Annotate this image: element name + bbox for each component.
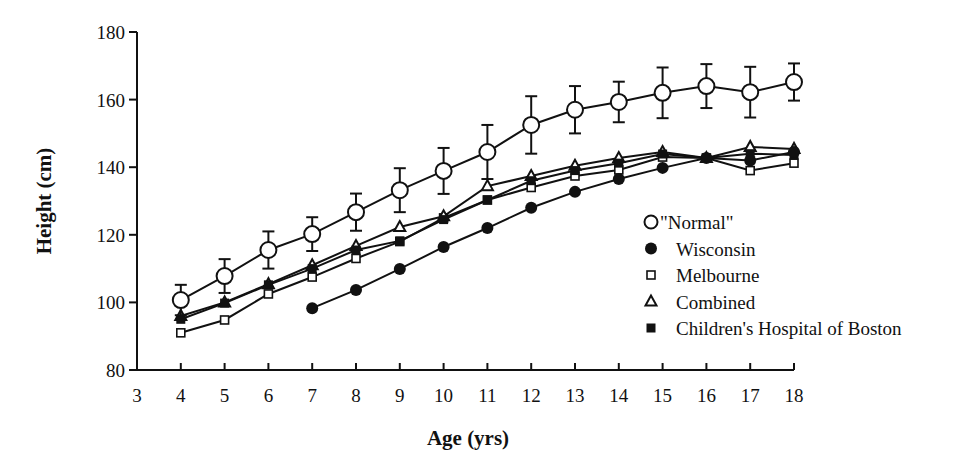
data-point bbox=[221, 316, 229, 324]
data-point bbox=[348, 204, 364, 220]
data-point bbox=[655, 85, 671, 101]
data-point bbox=[527, 176, 536, 185]
x-tick-label: 3 bbox=[132, 385, 142, 406]
x-tick-label: 10 bbox=[434, 385, 453, 406]
data-point bbox=[439, 215, 448, 224]
open-circle-icon bbox=[645, 216, 658, 229]
data-point bbox=[394, 263, 406, 275]
data-point bbox=[220, 299, 229, 308]
data-point bbox=[746, 167, 754, 175]
y-tick-label: 80 bbox=[106, 360, 125, 381]
x-tick-label: 14 bbox=[609, 385, 629, 406]
data-point bbox=[304, 226, 320, 242]
x-tick-label: 8 bbox=[351, 385, 361, 406]
filled-circle-icon bbox=[645, 243, 657, 255]
y-tick-label: 180 bbox=[97, 22, 126, 43]
data-point bbox=[700, 152, 712, 164]
data-point bbox=[614, 159, 623, 168]
y-axis-title: Height (cm) bbox=[32, 148, 56, 255]
x-tick-label: 6 bbox=[264, 385, 274, 406]
data-point bbox=[698, 78, 714, 94]
data-point bbox=[569, 186, 581, 198]
legend-item: Combined bbox=[646, 292, 756, 313]
data-point bbox=[264, 280, 273, 289]
data-point bbox=[350, 284, 362, 296]
data-point bbox=[308, 273, 316, 281]
x-tick-label: 16 bbox=[697, 385, 716, 406]
data-point bbox=[217, 268, 233, 284]
y-tick-label: 100 bbox=[97, 292, 126, 313]
data-point bbox=[352, 254, 360, 262]
data-point bbox=[523, 117, 539, 133]
legend-item: Wisconsin bbox=[645, 239, 756, 260]
x-tick-label: 12 bbox=[522, 385, 541, 406]
legend-label: Combined bbox=[676, 292, 756, 313]
data-point bbox=[481, 222, 493, 234]
data-point bbox=[177, 329, 185, 337]
legend-item: "Normal" bbox=[645, 212, 734, 233]
y-tick-label: 140 bbox=[97, 157, 126, 178]
legend-item: Melbourne bbox=[647, 265, 759, 286]
y-tick-label: 120 bbox=[97, 225, 126, 246]
data-point bbox=[306, 302, 318, 314]
data-point bbox=[482, 180, 493, 190]
x-tick-label: 9 bbox=[395, 385, 405, 406]
x-axis-title: Age (yrs) bbox=[427, 426, 509, 450]
data-point bbox=[436, 163, 452, 179]
data-point bbox=[658, 150, 667, 159]
data-point bbox=[788, 146, 800, 158]
data-point bbox=[525, 202, 537, 214]
legend-label: Wisconsin bbox=[676, 239, 756, 260]
x-tick-label: 13 bbox=[566, 385, 585, 406]
data-point bbox=[479, 144, 495, 160]
x-tick-label: 15 bbox=[653, 385, 672, 406]
data-point bbox=[483, 195, 492, 204]
data-point bbox=[744, 154, 756, 166]
data-point bbox=[395, 236, 404, 245]
y-tick-label: 160 bbox=[97, 90, 126, 111]
data-point bbox=[790, 159, 798, 167]
data-point bbox=[567, 102, 583, 118]
data-point bbox=[611, 94, 627, 110]
legend-label: "Normal" bbox=[660, 212, 734, 233]
legend-label: Melbourne bbox=[676, 265, 759, 286]
legend: "Normal"WisconsinMelbourneCombinedChildr… bbox=[645, 212, 903, 339]
data-point bbox=[438, 241, 450, 253]
data-point bbox=[264, 290, 272, 298]
open-square-icon bbox=[647, 271, 655, 279]
x-tick-label: 17 bbox=[741, 385, 760, 406]
data-point bbox=[173, 292, 189, 308]
height-vs-age-chart: 8010012014016018034567891011121314151617… bbox=[0, 0, 971, 465]
x-tick-label: 5 bbox=[220, 385, 230, 406]
data-point bbox=[394, 221, 405, 231]
x-tick-label: 7 bbox=[307, 385, 317, 406]
data-point bbox=[786, 74, 802, 90]
data-point bbox=[657, 162, 669, 174]
data-point bbox=[613, 173, 625, 185]
x-tick-label: 18 bbox=[785, 385, 804, 406]
open-triangle-icon bbox=[646, 296, 657, 306]
filled-square-icon bbox=[647, 324, 656, 333]
legend-label: Children's Hospital of Boston bbox=[676, 318, 902, 339]
legend-item: Children's Hospital of Boston bbox=[647, 318, 903, 339]
data-point bbox=[742, 84, 758, 100]
data-point bbox=[392, 182, 408, 198]
data-point bbox=[260, 242, 276, 258]
data-point bbox=[352, 246, 361, 255]
data-point bbox=[571, 166, 580, 175]
x-tick-label: 11 bbox=[478, 385, 496, 406]
data-point bbox=[308, 264, 317, 273]
x-tick-label: 4 bbox=[176, 385, 186, 406]
